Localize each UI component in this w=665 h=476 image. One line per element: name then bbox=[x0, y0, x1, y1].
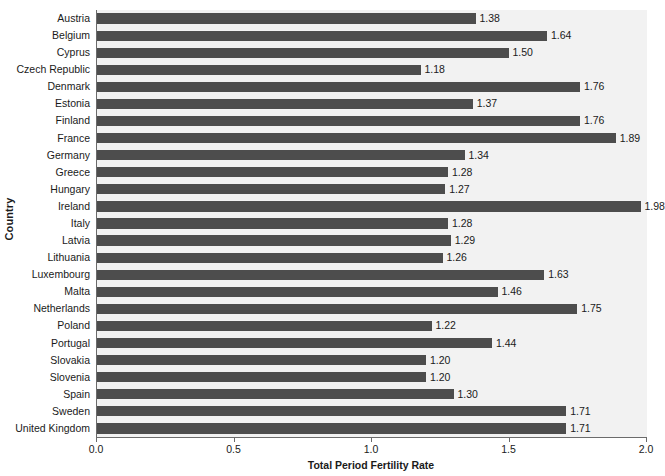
bar bbox=[97, 372, 426, 382]
bar bbox=[97, 133, 616, 143]
bar-row: Belgium1.64 bbox=[0, 27, 660, 44]
bar-value-label: 1.28 bbox=[448, 215, 472, 232]
category-label: Netherlands bbox=[0, 300, 90, 317]
category-label: Germany bbox=[0, 147, 90, 164]
bar-row: Cyprus1.50 bbox=[0, 44, 660, 61]
category-label: Belgium bbox=[0, 27, 90, 44]
bar bbox=[97, 65, 421, 75]
bar bbox=[97, 82, 580, 92]
category-label: Sweden bbox=[0, 403, 90, 420]
bar-row: Poland1.22 bbox=[0, 317, 660, 334]
bar-value-label: 1.20 bbox=[426, 369, 450, 386]
x-tick-label: 0.0 bbox=[89, 443, 104, 455]
bar-row: Ireland1.98 bbox=[0, 198, 660, 215]
category-label: Czech Republic bbox=[0, 61, 90, 78]
bar bbox=[97, 304, 577, 314]
category-label: Slovakia bbox=[0, 352, 90, 369]
bar-value-label: 1.34 bbox=[465, 147, 489, 164]
bar-row: France1.89 bbox=[0, 130, 660, 147]
category-label: Latvia bbox=[0, 232, 90, 249]
category-label: Hungary bbox=[0, 181, 90, 198]
category-label: Ireland bbox=[0, 198, 90, 215]
bar-value-label: 1.64 bbox=[547, 27, 571, 44]
bar-value-label: 1.50 bbox=[509, 44, 533, 61]
x-tick-label: 1.0 bbox=[364, 443, 379, 455]
bar-row: Latvia1.29 bbox=[0, 232, 660, 249]
bar-row: United Kingdom1.71 bbox=[0, 420, 660, 437]
bar-rows-container: Austria1.38Belgium1.64Cyprus1.50Czech Re… bbox=[0, 0, 660, 437]
bar-value-label: 1.98 bbox=[641, 198, 665, 215]
x-tick-mark bbox=[371, 437, 372, 442]
bar bbox=[97, 270, 544, 280]
bar-row: Sweden1.71 bbox=[0, 403, 660, 420]
bar bbox=[97, 48, 509, 58]
bar bbox=[97, 287, 498, 297]
bar bbox=[97, 31, 547, 41]
category-label: Lithuania bbox=[0, 249, 90, 266]
bar-row: Czech Republic1.18 bbox=[0, 61, 660, 78]
bar-row: Luxembourg1.63 bbox=[0, 266, 660, 283]
bar-row: Portugal1.44 bbox=[0, 335, 660, 352]
x-tick-mark bbox=[646, 437, 647, 442]
x-tick-mark bbox=[96, 437, 97, 442]
bar-value-label: 1.30 bbox=[454, 386, 478, 403]
bar bbox=[97, 321, 432, 331]
category-label: Luxembourg bbox=[0, 266, 90, 283]
bar-value-label: 1.20 bbox=[426, 352, 450, 369]
category-label: United Kingdom bbox=[0, 420, 90, 437]
bar-value-label: 1.29 bbox=[451, 232, 475, 249]
category-label: Spain bbox=[0, 386, 90, 403]
bar bbox=[97, 167, 448, 177]
x-tick-label: 2.0 bbox=[639, 443, 654, 455]
bar-row: Hungary1.27 bbox=[0, 181, 660, 198]
bar bbox=[97, 13, 476, 23]
bar-value-label: 1.44 bbox=[492, 335, 516, 352]
bar-value-label: 1.26 bbox=[443, 249, 467, 266]
bar-row: Estonia1.37 bbox=[0, 95, 660, 112]
x-axis-ticks: 0.00.51.01.52.0 bbox=[0, 437, 660, 459]
category-label: Greece bbox=[0, 164, 90, 181]
category-label: Estonia bbox=[0, 95, 90, 112]
bar bbox=[97, 253, 443, 263]
bar bbox=[97, 218, 448, 228]
x-tick-label: 1.5 bbox=[501, 443, 516, 455]
bar-value-label: 1.38 bbox=[476, 10, 500, 27]
bar-value-label: 1.46 bbox=[498, 283, 522, 300]
bar-row: Malta1.46 bbox=[0, 283, 660, 300]
category-label: Italy bbox=[0, 215, 90, 232]
bar bbox=[97, 406, 566, 416]
bar-value-label: 1.18 bbox=[421, 61, 445, 78]
bar-value-label: 1.37 bbox=[473, 95, 497, 112]
category-label: France bbox=[0, 130, 90, 147]
bar-value-label: 1.27 bbox=[445, 181, 469, 198]
x-tick-mark bbox=[234, 437, 235, 442]
x-tick-mark bbox=[509, 437, 510, 442]
bar bbox=[97, 99, 473, 109]
category-label: Slovenia bbox=[0, 369, 90, 386]
bar-row: Germany1.34 bbox=[0, 147, 660, 164]
bar-value-label: 1.28 bbox=[448, 164, 472, 181]
category-label: Cyprus bbox=[0, 44, 90, 61]
bar-value-label: 1.76 bbox=[580, 112, 604, 129]
bar bbox=[97, 235, 451, 245]
bar-row: Denmark1.76 bbox=[0, 78, 660, 95]
category-label: Denmark bbox=[0, 78, 90, 95]
bar bbox=[97, 150, 465, 160]
bar-row: Austria1.38 bbox=[0, 10, 660, 27]
bar bbox=[97, 423, 566, 433]
bar-row: Slovenia1.20 bbox=[0, 369, 660, 386]
bar-row: Italy1.28 bbox=[0, 215, 660, 232]
bar-row: Finland1.76 bbox=[0, 112, 660, 129]
category-label: Austria bbox=[0, 10, 90, 27]
category-label: Finland bbox=[0, 112, 90, 129]
bar-value-label: 1.71 bbox=[566, 420, 590, 437]
x-tick-label: 0.5 bbox=[226, 443, 241, 455]
bar bbox=[97, 355, 426, 365]
category-label: Malta bbox=[0, 283, 90, 300]
bar-row: Spain1.30 bbox=[0, 386, 660, 403]
bar-value-label: 1.71 bbox=[566, 403, 590, 420]
category-label: Poland bbox=[0, 317, 90, 334]
bar bbox=[97, 184, 445, 194]
bar bbox=[97, 389, 454, 399]
